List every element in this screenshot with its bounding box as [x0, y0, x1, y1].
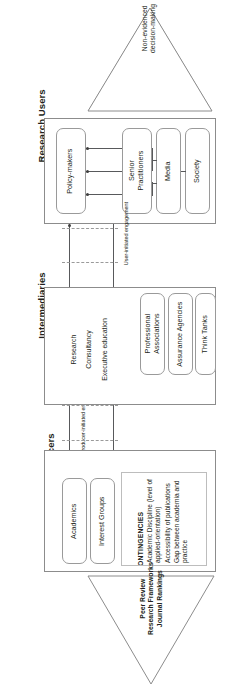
entity-think-tanks-label: Think Tanks: [201, 315, 210, 353]
flow-producer-initiated-arrow: [68, 224, 71, 227]
contingencies-panel: CONTINGENCIES Academic Discipline (level…: [121, 472, 207, 566]
connector-policy-senior-2: [86, 171, 122, 172]
contingency-item: Gap between academia and practice: [173, 472, 189, 563]
connector-senior-media-b: [152, 182, 153, 196]
entity-assurance-agencies[interactable]: Assurance Agencies: [168, 293, 193, 375]
flow-producer-initiated-label: Producer-initiated engagement: [50, 418, 116, 424]
entity-academics[interactable]: Academics: [62, 478, 87, 564]
entity-society-label: Society: [193, 159, 202, 183]
entity-senior-practitioners[interactable]: Senior Practitioners: [122, 128, 152, 214]
contingencies-list: Academic Discipline (level of applied-or…: [147, 472, 190, 566]
contingency-item: Accessibility of publications: [164, 472, 172, 563]
connector-senior-media-link1: [152, 160, 157, 161]
entity-interest-groups-label: Interest Groups: [98, 496, 107, 546]
entity-think-tanks[interactable]: Think Tanks: [195, 293, 216, 375]
dashed-divider-producers-top: [62, 440, 118, 441]
entity-interest-groups[interactable]: Interest Groups: [90, 478, 115, 564]
connector-senior-media-link2: [152, 183, 157, 184]
dashed-divider-intermediaries-top: [62, 262, 118, 263]
quality-gate-label-line1: Peer Review: [138, 579, 145, 619]
arrowhead-policy-2: [86, 170, 89, 173]
entity-policy-makers[interactable]: Policy-makers: [56, 128, 86, 214]
contingencies-content: CONTINGENCIES Academic Discipline (level…: [137, 472, 190, 566]
non-evidenced-label-line1: Non-evidenced: [142, 6, 149, 52]
entity-professional-associations-label-2: Associations: [152, 314, 161, 354]
dashed-divider-users-top: [62, 228, 118, 229]
connector-media-society: [181, 171, 186, 172]
arrowhead-policy-3: [86, 193, 89, 196]
contingencies-title: CONTINGENCIES: [137, 472, 145, 566]
entity-media[interactable]: Media: [156, 128, 181, 214]
entity-senior-practitioners-label-2: Practitioners: [136, 151, 145, 191]
flow-user-initiated-label: User-initiated engagement: [96, 232, 156, 238]
connector-policy-senior-1: [86, 148, 122, 149]
arrowhead-policy-1: [86, 147, 89, 150]
entity-academics-label: Academics: [70, 503, 79, 538]
non-evidenced-label-line2: decision-making: [150, 4, 157, 53]
channel-executive-education: Executive education: [93, 300, 115, 400]
entity-policy-makers-label: Policy-makers: [67, 148, 76, 193]
entity-professional-associations[interactable]: Professional Associations: [140, 293, 165, 375]
entity-society[interactable]: Society: [185, 128, 210, 214]
contingency-item: Academic Discipline (level of applied-or…: [147, 472, 163, 563]
quality-gate-label-line3: Journal Rankings: [155, 570, 162, 627]
entity-assurance-agencies-label: Assurance Agencies: [176, 301, 185, 366]
dashed-divider-intermediaries-bottom: [62, 405, 118, 406]
quality-gate-label-line2: Research Frameworks: [147, 562, 154, 635]
diagram-canvas: Non-evidenced decision-making Research U…: [0, 0, 239, 690]
connector-policy-senior-3: [86, 194, 122, 195]
entity-media-label: Media: [164, 161, 173, 181]
